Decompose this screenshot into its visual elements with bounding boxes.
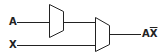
output-label-main: A: [142, 28, 150, 39]
input-label-x: X: [9, 40, 17, 50]
output-label: AX: [142, 29, 157, 39]
second-block-shape: [96, 18, 110, 52]
output-label-bar: X: [150, 28, 158, 39]
diagram-canvas: [0, 0, 165, 56]
input-label-a: A: [9, 17, 17, 27]
logic-diagram: A X AX: [0, 0, 165, 56]
first-block-shape: [50, 5, 64, 38]
